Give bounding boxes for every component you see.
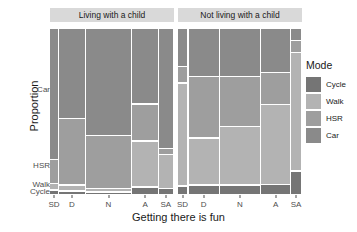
mosaic-tile-sd-car: [178, 29, 187, 66]
mosaic-tile-sa-hsr: [291, 41, 300, 51]
x-tick-label-d: D: [201, 200, 207, 209]
legend-label-hsr: HSR: [326, 114, 343, 123]
mosaic-column-sd: [178, 29, 187, 195]
x-tick-mark: [108, 195, 109, 198]
mosaic-tile-sd-walk: [50, 184, 58, 189]
mosaic-tile-a-car: [132, 29, 157, 103]
mosaic-tile-sa-car: [159, 29, 172, 148]
legend-item-cycle[interactable]: Cycle: [306, 76, 357, 92]
y-tick-label-car: Car: [37, 85, 50, 94]
mosaic-column-d: [59, 29, 84, 195]
mosaic-tile-a-hsr: [132, 105, 157, 141]
panel-strip-not-living: Not living with a child: [178, 8, 302, 22]
mosaic-tile-n-walk: [86, 189, 131, 191]
legend-item-walk[interactable]: Walk: [306, 93, 357, 109]
legend-swatch-walk: [306, 94, 321, 109]
legend-title: Mode: [306, 59, 357, 71]
mosaic-column-sd: [50, 29, 58, 195]
y-axis-ticks: CarHSRWalkCycle: [24, 0, 50, 232]
x-tick-label-d: D: [69, 200, 75, 209]
panel-not-living-with-a-child: [178, 29, 302, 195]
x-tick-mark: [182, 195, 183, 198]
mosaic-tile-a-walk: [132, 142, 157, 186]
mosaic-tile-sd-cycle: [178, 187, 187, 194]
mosaic-tile-d-walk: [59, 186, 84, 190]
mosaic-tile-n-hsr: [86, 136, 131, 188]
x-tick-mark: [275, 195, 276, 198]
legend-swatch-car: [306, 128, 321, 143]
mosaic-tile-n-car: [220, 29, 260, 76]
mosaic-tile-n-cycle: [86, 193, 131, 194]
x-tick-label-sa: SA: [161, 200, 172, 209]
mosaic-tile-d-hsr: [59, 119, 84, 184]
legend-swatch-cycle: [306, 77, 321, 92]
mosaic-tile-sd-car: [50, 29, 58, 159]
mosaic-tile-a-hsr: [261, 73, 290, 104]
x-tick-label-n: N: [106, 200, 112, 209]
x-axis-title: Getting there is fun: [0, 211, 357, 223]
x-tick-label-sd: SD: [48, 200, 59, 209]
mosaic-tile-d-car: [59, 29, 84, 118]
mosaic-tile-n-car: [86, 29, 131, 135]
x-tick-mark: [239, 195, 240, 198]
mosaic-tile-sd-hsr: [50, 160, 58, 183]
x-tick-mark: [53, 195, 54, 198]
legend-items: CycleWalkHSRCar: [306, 76, 357, 143]
mosaic-tile-n-walk: [220, 127, 260, 185]
legend: Mode CycleWalkHSRCar: [306, 59, 357, 144]
x-tick-mark: [203, 195, 204, 198]
x-tick-label-a: A: [273, 200, 278, 209]
mosaic-plot-figure: Proportion CarHSRWalkCycle Living with a…: [0, 0, 357, 232]
mosaic-tile-n-hsr: [220, 77, 260, 125]
legend-item-hsr[interactable]: HSR: [306, 110, 357, 126]
legend-swatch-hsr: [306, 111, 321, 126]
mosaic-tile-sd-cycle: [50, 191, 58, 194]
x-tick-label-n: N: [237, 200, 243, 209]
mosaic-tile-a-car: [261, 29, 290, 72]
mosaic-column-n: [220, 29, 260, 195]
panel-strip-living: Living with a child: [50, 8, 174, 22]
mosaic-column-a: [132, 29, 157, 195]
mosaic-tile-sd-walk: [178, 84, 187, 186]
mosaic-tile-sa-cycle: [291, 172, 300, 194]
x-tick-mark: [71, 195, 72, 198]
x-tick-label-a: A: [142, 200, 147, 209]
legend-label-walk: Walk: [326, 97, 343, 106]
mosaic-column-sa: [291, 29, 300, 195]
mosaic-tile-d-walk: [189, 139, 219, 185]
x-tick-mark: [165, 195, 166, 198]
mosaic-tile-a-cycle: [132, 188, 157, 194]
mosaic-column-a: [261, 29, 290, 195]
legend-label-car: Car: [326, 131, 339, 140]
panel-living-with-a-child: [50, 29, 174, 195]
legend-item-car[interactable]: Car: [306, 127, 357, 143]
mosaic-tile-d-car: [189, 29, 219, 76]
x-tick-mark: [296, 195, 297, 198]
mosaic-tile-d-hsr: [189, 77, 219, 137]
x-tick-mark: [145, 195, 146, 198]
mosaic-column-n: [86, 29, 131, 195]
mosaic-tile-sa-car: [291, 29, 300, 40]
mosaic-tile-a-cycle: [261, 185, 290, 194]
mosaic-column-d: [189, 29, 219, 195]
mosaic-column-sa: [159, 29, 172, 195]
mosaic-tile-d-cycle: [189, 186, 219, 194]
y-tick-label-hsr: HSR: [33, 161, 50, 170]
y-tick-label-cycle: Cycle: [30, 187, 50, 196]
mosaic-tile-a-walk: [261, 105, 290, 183]
mosaic-tile-d-cycle: [59, 192, 84, 194]
mosaic-tile-sa-walk: [291, 53, 300, 170]
x-tick-label-sa: SA: [291, 200, 302, 209]
x-tick-label-sd: SD: [177, 200, 188, 209]
legend-label-cycle: Cycle: [326, 80, 346, 89]
mosaic-tile-sa-cycle: [159, 189, 172, 193]
mosaic-tile-sa-hsr: [159, 149, 172, 153]
mosaic-tile-n-cycle: [220, 186, 260, 194]
mosaic-tile-sd-hsr: [178, 67, 187, 82]
mosaic-tile-sa-walk: [159, 155, 172, 188]
